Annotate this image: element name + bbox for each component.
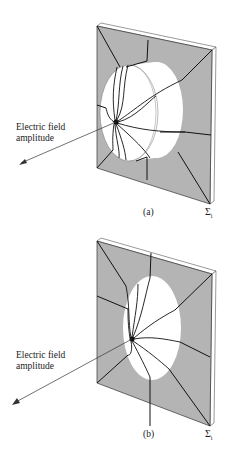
- arrow-label-a-line2: amplitude: [16, 133, 54, 144]
- surface-label-b: Σi: [205, 428, 213, 441]
- sigma-subscript: i: [211, 213, 213, 219]
- arrow-label-b-line1: Electric field: [16, 350, 65, 361]
- screen-diagram-b: [0, 226, 234, 453]
- panel-a: Electric field amplitude (a) Σi: [0, 0, 234, 226]
- caption-a: (a): [143, 207, 154, 217]
- sigma-subscript: i: [211, 435, 213, 441]
- arrow-label-a-line1: Electric field: [16, 122, 65, 133]
- surface-label-a: Σi: [205, 206, 213, 219]
- caption-b: (b): [143, 429, 154, 439]
- arrow-label-b-line2: amplitude: [16, 361, 54, 372]
- panel-b: Electric field amplitude (b) Σi: [0, 226, 234, 453]
- screen-diagram-a: [0, 0, 234, 226]
